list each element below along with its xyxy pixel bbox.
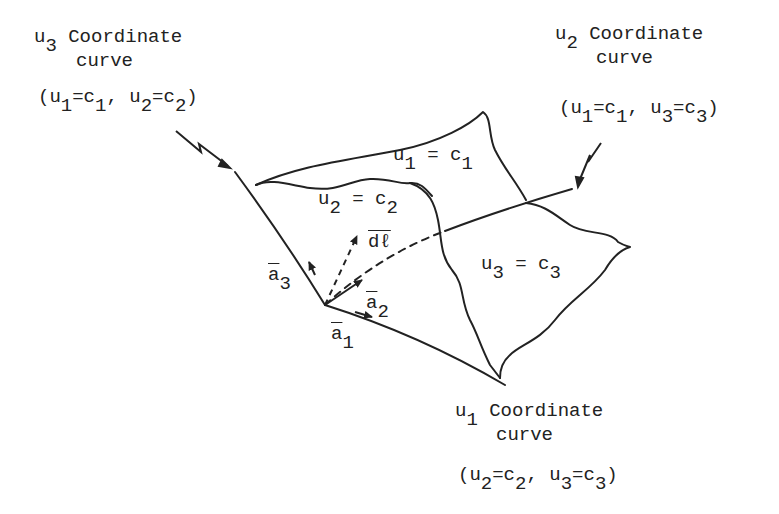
coordinate-diagram: u3 Coordinate curve (u1=c1, u2=c2) u2 Co… bbox=[0, 0, 779, 514]
u2-curve-condition: (u1=c1, u3=c3) bbox=[559, 99, 719, 118]
surface-u2-u3-edge bbox=[410, 183, 500, 378]
surface-u1-label: u1 = c1 bbox=[393, 146, 473, 165]
vector-a2-label: a2 bbox=[366, 294, 389, 313]
u1-curve-label-line2: curve bbox=[496, 426, 553, 445]
diagram-canvas bbox=[0, 0, 779, 514]
surface-u3-boundary bbox=[500, 203, 630, 378]
u3-curve-label-line2: curve bbox=[76, 52, 133, 71]
surface-u2-label: u2 = c2 bbox=[318, 190, 398, 209]
surface-u3-label: u3 = c3 bbox=[481, 255, 561, 274]
u3-curve-label: u3 Coordinate bbox=[34, 28, 182, 47]
vector-a3-label: a3 bbox=[268, 266, 291, 285]
u1-curve-condition: (u2=c2, u3=c3) bbox=[458, 466, 618, 485]
vector-dl-label: dℓ bbox=[368, 233, 391, 252]
surface-u1-boundary bbox=[256, 112, 526, 200]
pointer-u3-icon bbox=[176, 131, 228, 166]
u2-curve-label-line2: curve bbox=[596, 49, 653, 68]
u2-coordinate-curve bbox=[445, 189, 572, 231]
u3-curve-condition: (u1=c1, u2=c2) bbox=[38, 88, 198, 107]
vector-a3-arrow bbox=[309, 262, 315, 275]
u1-curve-label: u1 Coordinate bbox=[455, 402, 603, 421]
u2-curve-label: u2 Coordinate bbox=[555, 25, 703, 44]
vector-a1-label: a1 bbox=[331, 325, 354, 344]
